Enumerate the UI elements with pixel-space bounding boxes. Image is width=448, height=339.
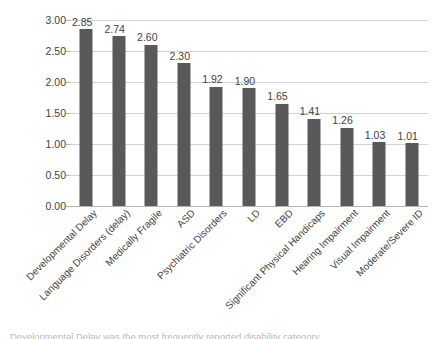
- bar[interactable]: [112, 36, 125, 206]
- y-axis-tick-label: 2.00: [22, 77, 66, 88]
- y-axis-tick-label: 1.50: [22, 108, 66, 119]
- bar[interactable]: [405, 143, 418, 206]
- bar-group[interactable]: 1.26: [330, 20, 363, 206]
- bar-chart-figure: 2.852.742.602.301.921.901.651.411.261.03…: [0, 0, 448, 339]
- bar-value-label: 2.30: [170, 51, 190, 62]
- y-axis-tick-mark: [66, 113, 70, 114]
- bar-group[interactable]: 1.92: [200, 20, 233, 206]
- bar[interactable]: [80, 29, 93, 206]
- y-axis-tick-mark: [66, 175, 70, 176]
- y-axis-tick-mark: [66, 144, 70, 145]
- bar-group[interactable]: 2.85: [70, 20, 103, 206]
- plot-area: 2.852.742.602.301.921.901.651.411.261.03…: [70, 20, 428, 206]
- bar[interactable]: [210, 87, 223, 206]
- bar[interactable]: [242, 88, 255, 206]
- bar[interactable]: [177, 63, 190, 206]
- y-axis-tick-label: 1.00: [22, 139, 66, 150]
- bar-value-label: 1.41: [300, 106, 320, 117]
- figure-caption: Developmental Delay was the most frequen…: [10, 331, 440, 339]
- y-axis-tick-label: 3.00: [22, 15, 66, 26]
- bar[interactable]: [308, 119, 321, 206]
- bar-value-label: 1.92: [202, 74, 222, 85]
- x-axis-label: EBD: [273, 208, 295, 230]
- bar-group[interactable]: 2.60: [135, 20, 168, 206]
- bar-value-label: 1.01: [397, 131, 417, 142]
- x-axis-label: ASD: [175, 208, 197, 230]
- bar[interactable]: [340, 128, 353, 206]
- bar[interactable]: [373, 142, 386, 206]
- y-axis-tick-mark: [66, 82, 70, 83]
- y-axis-tick-label: 2.50: [22, 46, 66, 57]
- bar-value-label: 2.60: [137, 32, 157, 43]
- bar-group[interactable]: 1.03: [363, 20, 396, 206]
- x-axis-category-labels: Developmental DelayLanguage Disorders (d…: [70, 208, 428, 318]
- bar-group[interactable]: 1.41: [298, 20, 331, 206]
- bar-group[interactable]: 1.01: [395, 20, 428, 206]
- x-axis-label: Moderate/Severe ID: [354, 208, 424, 278]
- bar-group[interactable]: 1.90: [233, 20, 266, 206]
- y-axis-tick-mark: [66, 20, 70, 21]
- bar-value-label: 1.26: [332, 115, 352, 126]
- bar-value-label: 1.65: [267, 91, 287, 102]
- bar[interactable]: [145, 45, 158, 206]
- y-axis-tick-mark: [66, 206, 70, 207]
- bar-value-label: 2.74: [104, 24, 124, 35]
- bar-value-label: 2.85: [72, 17, 92, 28]
- bar-group[interactable]: 2.30: [168, 20, 201, 206]
- bar-value-label: 1.03: [365, 130, 385, 141]
- bar-value-label: 1.90: [235, 76, 255, 87]
- y-axis-tick-label: 0.00: [22, 201, 66, 212]
- y-axis-tick-mark: [66, 51, 70, 52]
- bar-group[interactable]: 1.65: [265, 20, 298, 206]
- y-axis-tick-label: 0.50: [22, 170, 66, 181]
- bar[interactable]: [275, 104, 288, 206]
- x-axis-label: Visual Impairment: [329, 208, 393, 272]
- x-axis-label: LD: [246, 208, 262, 224]
- bar-group[interactable]: 2.74: [103, 20, 136, 206]
